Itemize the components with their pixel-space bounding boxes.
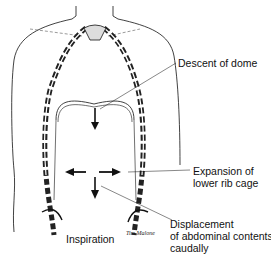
torso-right-outline [118, 19, 180, 165]
expansion-label-line2: lower rib cage [193, 177, 258, 189]
displacement-label-line3: caudally [170, 242, 209, 254]
displacement-label-line2: of abdominal contents [170, 230, 271, 242]
expansion-label-line1: Expansion of [193, 165, 254, 177]
inspiration-diagram: Descent of dome Expansion of lower rib c… [0, 0, 271, 254]
inspiration-title: Inspiration [66, 233, 114, 245]
displacement-leader-line [101, 186, 172, 220]
displacement-label-line1: Displacement [170, 218, 234, 230]
expansion-right-arrow-icon [99, 168, 121, 176]
cavity-left [54, 120, 56, 200]
artist-signature: Tim Malone [126, 230, 155, 236]
expansion-leader-line [128, 170, 190, 172]
neck-right-outline [113, 6, 118, 19]
cavity-right [134, 120, 136, 200]
descent-of-dome-label: Descent of dome [178, 57, 257, 69]
torso-illustration [0, 0, 271, 254]
displacement-arrow-icon [91, 177, 99, 199]
rib-cage-right [104, 28, 143, 235]
descent-arrow-icon [91, 108, 99, 130]
sternum [84, 25, 106, 40]
torso-left-outline [12, 19, 72, 232]
neck-left-outline [72, 6, 76, 19]
clavicle-left [30, 29, 82, 36]
rib-cage-left [45, 28, 86, 235]
expansion-left-arrow-icon [65, 168, 86, 176]
